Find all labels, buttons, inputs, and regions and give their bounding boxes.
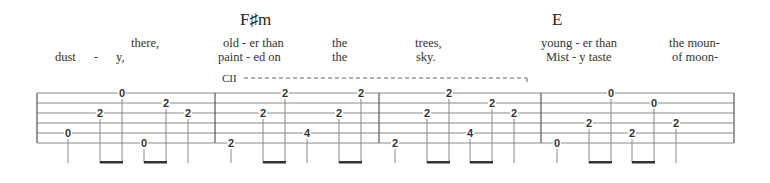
tab-fret-number: 2 (259, 108, 267, 118)
tab-fret-number: 2 (445, 88, 453, 98)
tab-fret-number: 2 (335, 108, 343, 118)
tab-fret-number: 0 (607, 88, 615, 98)
eighth-note-beam (263, 161, 286, 164)
eighth-note-beam (427, 161, 450, 164)
eighth-note-beam (339, 161, 362, 164)
tab-fret-number: 2 (184, 108, 192, 118)
tab-fret-number: 2 (488, 98, 496, 108)
tab-fret-number: 2 (510, 108, 518, 118)
eighth-note-beam (589, 161, 612, 164)
tab-fret-number: 2 (162, 98, 170, 108)
tab-fret-number: 4 (303, 128, 311, 138)
eighth-note-beam (632, 161, 655, 164)
eighth-note-beam (100, 161, 123, 164)
tab-fret-number: 0 (118, 88, 126, 98)
tab-fret-number: 0 (553, 138, 561, 148)
tab-fret-number: 2 (281, 88, 289, 98)
tab-fret-number: 0 (64, 128, 72, 138)
eighth-note-beam (470, 161, 493, 164)
tab-fret-number: 2 (96, 108, 104, 118)
tab-fret-number: 0 (650, 98, 658, 108)
tab-fret-number: 2 (357, 88, 365, 98)
tab-fret-number: 4 (466, 128, 474, 138)
eighth-note-beam (144, 161, 167, 164)
tab-fret-number: 2 (628, 128, 636, 138)
tab-fret-number: 2 (423, 108, 431, 118)
tab-fret-number: 2 (391, 138, 399, 148)
tab-staff (0, 0, 770, 183)
tab-fret-number: 2 (672, 118, 680, 128)
tab-fret-number: 0 (140, 138, 148, 148)
tab-fret-number: 2 (585, 118, 593, 128)
tab-fret-number: 2 (227, 138, 235, 148)
